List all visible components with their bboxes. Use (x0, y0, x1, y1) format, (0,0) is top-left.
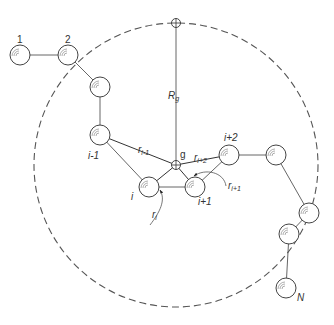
polymer-chain-diagram: g Rg 12i-1ii+1i+2N ri-1ri+2ri+1ri (0, 0, 334, 325)
top-marker-crosshair (172, 19, 181, 28)
chain-nodes (10, 45, 319, 298)
position-vectors (103, 136, 226, 185)
chain-node-n7 (299, 203, 319, 223)
chain-node-n6 (266, 145, 286, 165)
chain-node-2 (58, 45, 78, 65)
node-label: i-1 (88, 150, 99, 161)
chain-node-i (139, 177, 159, 197)
node-labels: 12i-1ii+1i+2N (17, 34, 305, 303)
vector-label: ri-1 (138, 144, 149, 156)
chain-node-i-1 (90, 125, 110, 145)
center-of-mass-marker (172, 161, 181, 170)
vector-label: ri (152, 209, 157, 221)
vector-label: ri+1 (228, 180, 241, 192)
chain-node-1 (10, 45, 30, 65)
chain-bonds (20, 55, 309, 288)
chain-node-n3 (90, 77, 110, 97)
radius-label: Rg (168, 90, 179, 103)
bond (100, 135, 149, 187)
chain-node-n8 (279, 224, 299, 244)
node-label: i+1 (198, 196, 212, 207)
chain-node-i+2 (219, 145, 239, 165)
chain-node-i+1 (185, 177, 205, 197)
vector-label: ri+2 (194, 152, 207, 164)
node-label: N (297, 292, 305, 303)
node-label: 1 (17, 34, 23, 45)
center-label: g (180, 149, 186, 160)
chain-node-N (276, 278, 296, 298)
node-label: 2 (65, 34, 71, 45)
node-label: i+2 (224, 132, 238, 143)
diagram-canvas: g Rg 12i-1ii+1i+2N ri-1ri+2ri+1ri (0, 0, 334, 325)
node-label: i (131, 191, 134, 202)
